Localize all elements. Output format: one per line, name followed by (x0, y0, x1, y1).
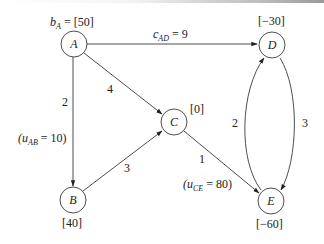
svg-text:A: A (69, 37, 78, 51)
edge-label-D-E: 3 (302, 116, 308, 130)
edge-A-C (84, 53, 162, 114)
edge-label-A-D: cAD= 9 (153, 27, 188, 43)
edge-label-E-D: 2 (232, 116, 238, 130)
node-B: B (60, 187, 86, 213)
supply-label-C: [0] (190, 102, 204, 116)
supply-label-A: bA= [50] (50, 15, 94, 31)
supply-label-B: [40] (62, 216, 82, 230)
svg-text:C: C (170, 115, 179, 129)
node-D: D (259, 32, 285, 58)
edge-label-B-C: 3 (124, 161, 130, 175)
node-C: C (161, 109, 187, 135)
node-E: E (258, 188, 284, 214)
supply-label-E: [−60] (256, 217, 283, 231)
svg-text:D: D (267, 38, 277, 52)
edge-D-E (280, 58, 294, 190)
supply-label-D: [−30] (258, 14, 285, 28)
edge-label-A-B: 2 (62, 95, 68, 109)
network-diagram: A D C B E bA= [50] [−30] [0] [40] [−60] … (0, 0, 324, 244)
svg-text:E: E (266, 194, 275, 208)
edge-label-C-E: 1 (199, 152, 205, 166)
svg-text:B: B (69, 193, 77, 207)
node-A: A (61, 31, 87, 57)
edge-B-C (83, 131, 162, 191)
edge-E-D (245, 58, 264, 190)
edge-label-A-C: 4 (107, 82, 113, 96)
capacity-label-C-E: (uCE= 80) (183, 177, 232, 193)
capacity-label-A-B: (uAB= 10) (18, 131, 67, 147)
